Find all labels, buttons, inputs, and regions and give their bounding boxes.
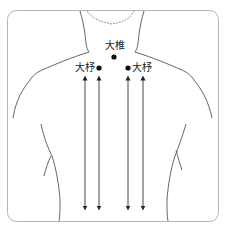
torso-left-outline (41, 124, 60, 221)
dazhu-left-point-dot (96, 65, 101, 70)
dazhu-right-point-dot (125, 65, 130, 70)
dazhui-point-dot (111, 54, 116, 59)
hairline-outline (87, 11, 134, 24)
neck-left-outline (80, 11, 89, 52)
back-diagram (0, 0, 227, 233)
dazhu-left-label: 大杼 (75, 63, 95, 73)
armpit-right-outline (176, 150, 182, 170)
armpit-left-outline (44, 156, 51, 176)
neck-right-outline (135, 11, 144, 52)
torso-right-outline (167, 124, 186, 221)
dazhui-label: 大椎 (105, 41, 125, 51)
dazhu-right-label: 大杼 (132, 63, 152, 73)
